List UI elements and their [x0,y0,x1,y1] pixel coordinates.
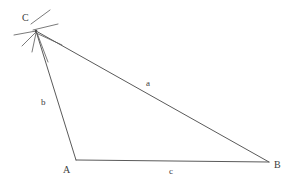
vertex-label-c: C [22,13,29,23]
diagram-canvas [0,0,290,182]
side-label-a: a [146,79,150,88]
geometry-diagram: C A B a b c [0,0,290,182]
vertex-label-b: B [274,160,281,170]
construction-stroke-right-shallow [33,24,58,30]
construction-stroke-left-shallow [14,31,36,35]
side-label-c: c [169,167,173,176]
vertex-label-a: A [63,165,70,175]
side-label-b: b [41,98,46,107]
side-c-edge-ab [76,160,269,162]
construction-stroke-upper-right [31,10,50,24]
